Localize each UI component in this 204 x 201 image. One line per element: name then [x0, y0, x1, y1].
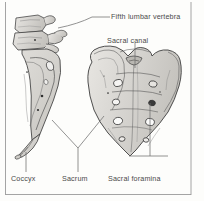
sacrum-anterior	[88, 46, 181, 156]
label-sacrum: Sacrum	[62, 175, 88, 182]
sacrum-lateral	[22, 49, 61, 140]
anterior-view	[88, 46, 181, 156]
label-sacral-foramina: Sacral foramina	[108, 175, 161, 182]
anatomy-illustration	[0, 0, 204, 201]
label-coccyx: Coccyx	[11, 175, 35, 182]
label-fifth-lumbar-vertebra: Fifth lumbar vertebra	[111, 13, 180, 20]
leader-fifth-lumbar-vertebra	[58, 17, 110, 28]
leader-sacrum	[52, 116, 104, 172]
anatomy-figure: Fifth lumbar vertebra Sacral canal Coccy…	[0, 0, 204, 201]
fourth-lumbar-vertebra	[15, 15, 55, 33]
label-sacral-canal: Sacral canal	[107, 37, 148, 44]
lateral-view	[13, 15, 67, 160]
coccyx-lateral	[14, 134, 40, 160]
